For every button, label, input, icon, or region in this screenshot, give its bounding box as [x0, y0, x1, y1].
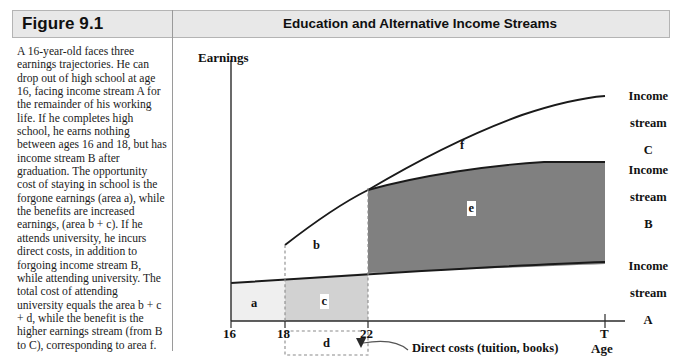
direct-costs-leader-line [363, 341, 408, 350]
label-income-stream-b: Income stream B [604, 150, 674, 245]
chart-canvas: Earnings Age 16 18 22 T Income stream C … [172, 38, 680, 358]
area-label-e: e [467, 201, 476, 216]
figure-root: Figure 9.1 Education and Alternative Inc… [0, 0, 680, 358]
figure-title: Education and Alternative Income Streams [180, 15, 660, 33]
income-stream-a-line3: A [644, 313, 653, 327]
income-stream-a-line2: stream [630, 286, 667, 300]
y-axis-label: Earnings [198, 50, 249, 66]
income-stream-a-line1: Income [629, 259, 669, 273]
region-e-fill [368, 162, 605, 273]
income-stream-b-line3: B [644, 217, 652, 231]
area-label-d: d [323, 336, 330, 351]
area-label-a: a [251, 296, 257, 311]
income-stream-c-line1: Income [629, 89, 669, 103]
figure-caption: A 16-year-old faces three earnings traje… [17, 45, 167, 352]
income-stream-b-line2: stream [630, 190, 667, 204]
tick-label-16: 16 [223, 326, 236, 342]
income-stream-c-line2: stream [630, 116, 667, 130]
income-stream-b-line1: Income [629, 163, 669, 177]
area-label-b: b [313, 238, 320, 253]
tick-label-18: 18 [277, 326, 290, 342]
area-label-c: c [320, 294, 329, 309]
area-label-f: f [460, 138, 464, 153]
figure-number: Figure 9.1 [22, 13, 162, 35]
tick-label-22: 22 [360, 326, 373, 342]
x-axis-label: Age [591, 341, 613, 357]
label-income-stream-a: Income stream A [604, 246, 674, 341]
annotation-direct-costs: Direct costs (tuition, books) [412, 341, 558, 356]
region-a-fill [231, 279, 285, 321]
